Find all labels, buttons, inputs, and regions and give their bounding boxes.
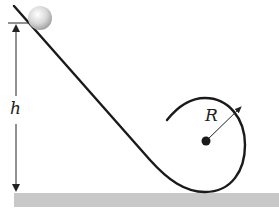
radius-label: R xyxy=(204,105,218,125)
arrow-down-icon xyxy=(12,184,20,192)
arrow-up-icon xyxy=(12,24,20,32)
loop-track-diagram: h R xyxy=(0,0,279,212)
track xyxy=(14,6,245,192)
ball xyxy=(28,6,52,30)
height-label: h xyxy=(10,98,21,118)
ground xyxy=(14,193,279,207)
